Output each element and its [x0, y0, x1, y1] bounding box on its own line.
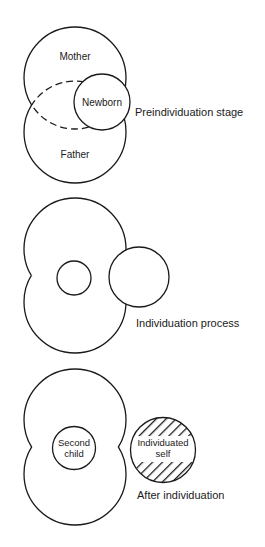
newborn-label: Newborn [82, 97, 122, 108]
individuated-self-label-line1: Individuated [137, 437, 188, 448]
second-child-label-line1: Second [58, 437, 90, 448]
inner-child-circle [57, 261, 91, 295]
after-individuation-stage: Second child Individuated self After ind… [24, 369, 224, 525]
individuation-diagram: Mother Newborn Father Preindividuation s… [0, 0, 265, 547]
second-child-label-line2: child [64, 448, 84, 459]
mother-label: Mother [59, 51, 91, 62]
individuation-process-stage: Individuation process [24, 198, 240, 353]
preindividuation-caption: Preindividuation stage [135, 106, 243, 118]
individuated-self-label-line2: self [156, 448, 171, 459]
preindividuation-stage: Mother Newborn Father Preindividuation s… [24, 27, 243, 183]
father-label: Father [61, 149, 91, 160]
individuation-caption: Individuation process [136, 317, 240, 329]
after-individuation-caption: After individuation [137, 489, 224, 501]
emerging-self-circle [109, 247, 169, 307]
